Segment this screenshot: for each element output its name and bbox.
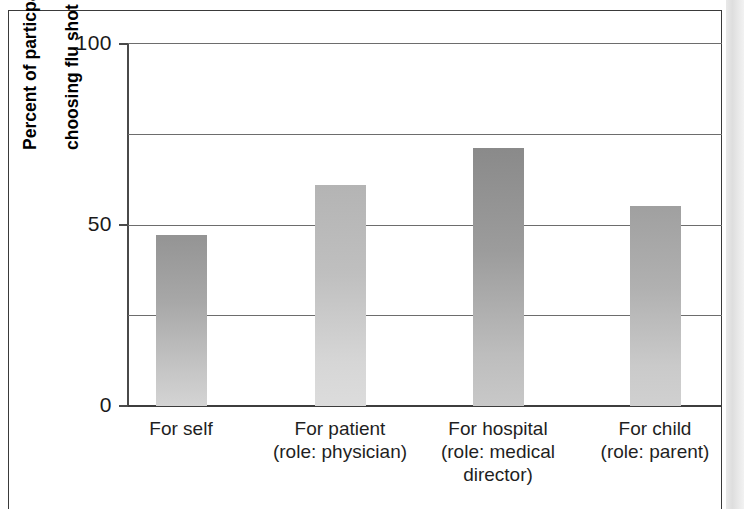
x-axis-label-for-self-line-1: For self — [96, 417, 266, 440]
x-axis-label-for-hospital: For hospital (role: medical director) — [413, 417, 583, 486]
x-axis-label-for-patient: For patient (role: physician) — [255, 417, 425, 463]
y-tick-mark-100 — [119, 43, 128, 45]
x-axis-label-for-self: For self — [96, 417, 266, 440]
gridline-75 — [128, 134, 722, 135]
y-tick-label-50: 50 — [52, 212, 112, 236]
bar-for-child — [630, 206, 681, 406]
x-axis-label-for-child-line-2: (role: parent) — [570, 440, 740, 463]
y-axis-title: Percent of particpants choosing flu shot — [0, 0, 104, 150]
bar-for-hospital — [473, 148, 524, 406]
bar-for-self — [156, 235, 207, 406]
x-axis-label-for-hospital-line-1: For hospital — [413, 417, 583, 440]
y-tick-label-0: 0 — [52, 393, 112, 417]
y-axis-title-line-2: choosing flu shot — [62, 0, 83, 150]
gridline-100 — [128, 43, 722, 44]
x-axis-label-for-patient-line-2: (role: physician) — [255, 440, 425, 463]
x-axis-label-for-hospital-line-2: (role: medical — [413, 440, 583, 463]
x-axis-label-for-patient-line-1: For patient — [255, 417, 425, 440]
x-axis-label-for-hospital-line-3: director) — [413, 463, 583, 486]
plot-area — [128, 43, 722, 406]
y-tick-mark-50 — [119, 224, 128, 226]
y-tick-label-100: 100 — [52, 31, 112, 55]
y-tick-mark-0 — [119, 405, 128, 407]
y-axis-title-line-1: Percent of particpants — [20, 0, 41, 150]
bar-chart: Percent of particpants choosing flu shot… — [0, 0, 744, 509]
bar-for-patient — [315, 185, 366, 406]
x-axis-label-for-child-line-1: For child — [570, 417, 740, 440]
x-axis-label-for-child: For child (role: parent) — [570, 417, 740, 463]
